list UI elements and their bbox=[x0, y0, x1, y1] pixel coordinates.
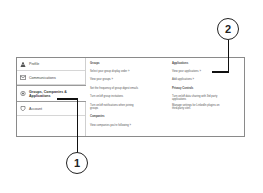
group-digest-frequency-link[interactable]: Set the frequency of group digest emails bbox=[90, 87, 138, 90]
callout-2: 2 bbox=[217, 18, 239, 40]
callout-1-leader-horizontal bbox=[57, 98, 78, 100]
data-sharing-link-line2[interactable]: applications bbox=[172, 98, 186, 101]
person-icon bbox=[20, 62, 26, 67]
sidebar-item-label: Profile bbox=[29, 62, 39, 66]
view-your-applications-link[interactable]: View your applications » bbox=[172, 70, 201, 73]
privacy-controls-heading: Privacy Controls bbox=[172, 87, 193, 90]
sidebar-item-label: Communications bbox=[29, 76, 56, 80]
add-applications-link[interactable]: Add applications » bbox=[172, 78, 194, 81]
settings-panel: Profile Communications Groups, Companies… bbox=[16, 57, 245, 137]
callout-1-leader-vertical bbox=[77, 98, 79, 153]
shield-icon bbox=[20, 106, 26, 111]
group-notifications-link-line2[interactable]: groups bbox=[90, 107, 98, 110]
companies-heading: Companies bbox=[90, 115, 105, 118]
group-invitations-link[interactable]: Turn on/off group invitations bbox=[90, 95, 123, 98]
view-your-groups-link[interactable]: View your groups » bbox=[90, 78, 113, 81]
applications-heading: Applications bbox=[172, 62, 188, 65]
sidebar-item-profile[interactable]: Profile bbox=[17, 58, 85, 71]
groups-heading: Groups bbox=[90, 62, 100, 65]
linkedin-plugins-settings-link-line2[interactable]: third-party sites bbox=[172, 107, 190, 110]
callout-2-leader-horizontal bbox=[212, 71, 229, 73]
sidebar-item-label: Account bbox=[29, 107, 42, 111]
sidebar-item-account[interactable]: Account bbox=[17, 102, 85, 116]
view-companies-following-link[interactable]: View companies you're following » bbox=[90, 124, 131, 127]
groups-icon bbox=[20, 91, 26, 96]
sidebar-item-communications[interactable]: Communications bbox=[17, 71, 85, 85]
callout-2-leader-vertical bbox=[228, 40, 230, 72]
sidebar-item-label-line2: Applications bbox=[29, 94, 67, 98]
envelope-icon bbox=[20, 75, 26, 80]
select-group-display-order-link[interactable]: Select your group display order » bbox=[90, 70, 129, 73]
callout-1: 1 bbox=[66, 152, 88, 174]
